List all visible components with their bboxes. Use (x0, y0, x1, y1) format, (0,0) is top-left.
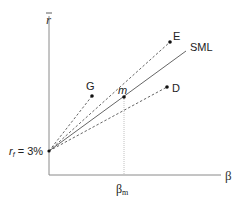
x-axis-label: β (225, 168, 232, 183)
point-D (165, 85, 169, 89)
G-label: G (86, 80, 95, 92)
line-to-D (49, 87, 167, 151)
line-to-G (49, 96, 92, 151)
point-G (90, 94, 94, 98)
sml-line (49, 51, 186, 151)
rf-value: = 3% (15, 145, 44, 157)
y-axis-label: r (46, 12, 52, 27)
beta-m-subscript: m (122, 188, 129, 197)
sml-chart: r β SML E G m D rf = 3% βm (0, 0, 243, 202)
D-label: D (172, 82, 180, 94)
E-label: E (173, 30, 180, 42)
sml-label: SML (190, 41, 213, 53)
line-to-E (49, 42, 170, 151)
point-E (168, 40, 172, 44)
point-rf (47, 149, 50, 152)
beta-m-label: βm (116, 182, 129, 197)
m-label: m (118, 84, 127, 96)
rf-label: rf = 3% (9, 145, 43, 158)
